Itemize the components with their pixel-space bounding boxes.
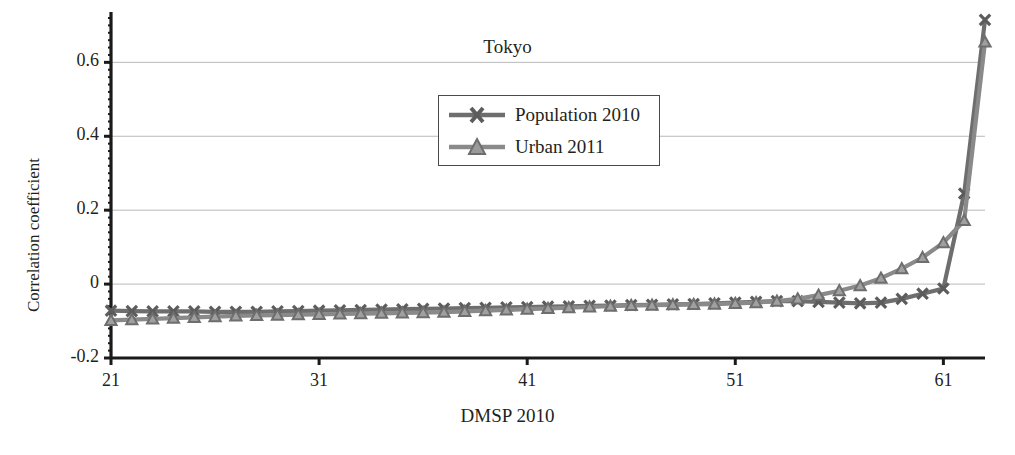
legend-label-population-2010: Population 2010 [515, 104, 640, 126]
chart-legend: Population 2010 Urban 2011 [438, 95, 660, 166]
y-tick-label: 0 [39, 272, 99, 293]
y-tick-label: -0.2 [39, 346, 99, 367]
legend-item-urban-2011: Urban 2011 [447, 132, 605, 162]
y-tick-label: 0.2 [39, 198, 99, 219]
x-axis-title: DMSP 2010 [0, 405, 1015, 427]
x-tick-label: 21 [81, 370, 141, 391]
x-tick-label: 41 [497, 370, 557, 391]
y-tick-label: 0.6 [39, 50, 99, 71]
x-tick-label: 61 [913, 370, 973, 391]
data-point-marker [813, 290, 824, 300]
chart-title: Tokyo [0, 36, 1015, 58]
legend-swatch-triangle-marker [447, 136, 507, 158]
x-tick-label: 31 [289, 370, 349, 391]
series-line-1 [111, 42, 985, 320]
legend-item-population-2010: Population 2010 [447, 100, 640, 130]
data-point-marker [855, 280, 866, 290]
data-point-marker [792, 293, 803, 303]
x-tick-label: 51 [705, 370, 765, 391]
legend-label-urban-2011: Urban 2011 [515, 136, 605, 158]
chart-figure: Tokyo Correlation coefficient DMSP 2010 … [0, 0, 1015, 455]
data-point-marker [834, 285, 845, 295]
legend-swatch-x-marker [447, 104, 507, 126]
y-tick-label: 0.4 [39, 124, 99, 145]
